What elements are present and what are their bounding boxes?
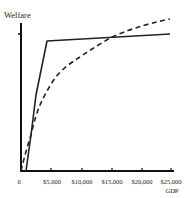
dashed-welfare-curve <box>21 19 170 171</box>
x-tick-label-0: 0 <box>17 178 20 185</box>
x-tick-label-15000: $15,000 <box>101 178 122 185</box>
x-tick-label-20000: $20,000 <box>131 178 152 185</box>
solid-welfare-curve <box>26 34 170 171</box>
x-tick-label-10000: $10,000 <box>71 178 92 185</box>
y-axis-label: Welfare <box>4 10 31 20</box>
x-tick-label-5000: $5,000 <box>43 178 61 185</box>
welfare-gdp-chart: Welfare 0 $5,000 $10,000 $15,000 $20,000… <box>0 0 189 198</box>
x-tick-label-25000: $25,000 <box>160 178 181 185</box>
x-axis-label: GDP <box>165 187 178 194</box>
